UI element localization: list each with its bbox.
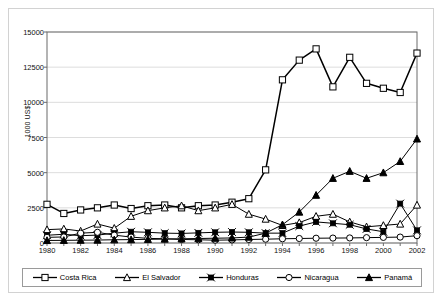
data-point-cross-square: [312, 218, 320, 226]
data-point-open-square: [263, 167, 269, 173]
data-point-filled-triangle: [346, 168, 353, 175]
data-point-open-circle: [380, 234, 386, 240]
legend-item-honduras[interactable]: Honduras: [198, 272, 259, 283]
data-point-cross-square: [396, 200, 404, 208]
data-point-open-square: [347, 54, 353, 60]
data-point-open-triangle: [245, 210, 252, 217]
data-point-open-square: [246, 196, 252, 202]
data-point-open-circle: [263, 236, 269, 242]
data-point-open-square: [380, 85, 386, 91]
data-point-cross-square: [346, 221, 354, 229]
data-point-open-square: [313, 46, 319, 52]
legend-label: Panamá: [383, 273, 412, 282]
series-line-el-salvador: [47, 204, 417, 231]
data-point-open-circle: [397, 234, 403, 240]
data-point-open-circle: [313, 235, 319, 241]
data-point-filled-triangle: [329, 175, 336, 182]
series-line-costa-rica: [47, 49, 417, 214]
data-point-open-circle: [94, 229, 100, 235]
legend-label: Costa Rica: [59, 273, 97, 282]
data-point-open-circle: [347, 235, 353, 241]
data-point-open-square: [42, 274, 48, 280]
data-point-open-triangle: [94, 220, 101, 227]
data-point-open-square: [363, 80, 369, 86]
data-point-open-square: [94, 205, 100, 211]
data-point-open-circle: [363, 235, 369, 241]
data-point-cross-square: [207, 274, 215, 282]
legend-label: Nicaragua: [303, 273, 338, 282]
data-point-open-square: [111, 202, 117, 208]
legend-marker-open-triangle: [114, 272, 140, 283]
legend-item-nicaragua[interactable]: Nicaragua: [276, 272, 338, 283]
legend-label: Honduras: [225, 273, 259, 282]
data-point-open-square: [330, 84, 336, 90]
data-point-open-square: [61, 210, 67, 216]
data-point-open-circle: [414, 233, 420, 239]
series-markers-costa-rica: [44, 46, 420, 217]
data-point-open-triangle: [414, 201, 421, 208]
data-point-open-square: [296, 57, 302, 63]
chart-legend: Costa RicaEl SalvadorHondurasNicaraguaPa…: [22, 268, 422, 287]
data-point-cross-square: [295, 222, 303, 230]
legend-item-el-salvador[interactable]: El Salvador: [114, 272, 180, 283]
legend-marker-open-circle: [276, 272, 302, 283]
data-point-cross-square: [329, 219, 337, 227]
data-point-open-square: [78, 207, 84, 213]
legend-marker-open-square: [32, 272, 58, 283]
legend-item-panamá[interactable]: Panamá: [356, 272, 412, 283]
data-point-cross-square: [363, 225, 371, 233]
data-point-open-circle: [286, 274, 292, 280]
legend-marker-filled-triangle: [356, 272, 382, 283]
data-point-open-circle: [330, 235, 336, 241]
line-chart: 1000 US$ 0250050007500100001250015000 19…: [0, 0, 444, 303]
data-point-open-square: [128, 205, 134, 211]
data-point-open-square: [414, 50, 420, 56]
data-point-open-circle: [296, 235, 302, 241]
data-point-open-circle: [78, 230, 84, 236]
plot-svg: [0, 0, 444, 303]
legend-label: El Salvador: [141, 273, 180, 282]
data-point-open-square: [279, 77, 285, 83]
data-point-open-square: [44, 201, 50, 207]
legend-item-costa-rica[interactable]: Costa Rica: [32, 272, 97, 283]
data-point-open-circle: [279, 236, 285, 242]
legend-marker-cross-square: [198, 272, 224, 283]
data-point-filled-triangle: [414, 135, 421, 142]
data-point-open-square: [397, 89, 403, 95]
data-point-open-triangle: [329, 210, 336, 217]
